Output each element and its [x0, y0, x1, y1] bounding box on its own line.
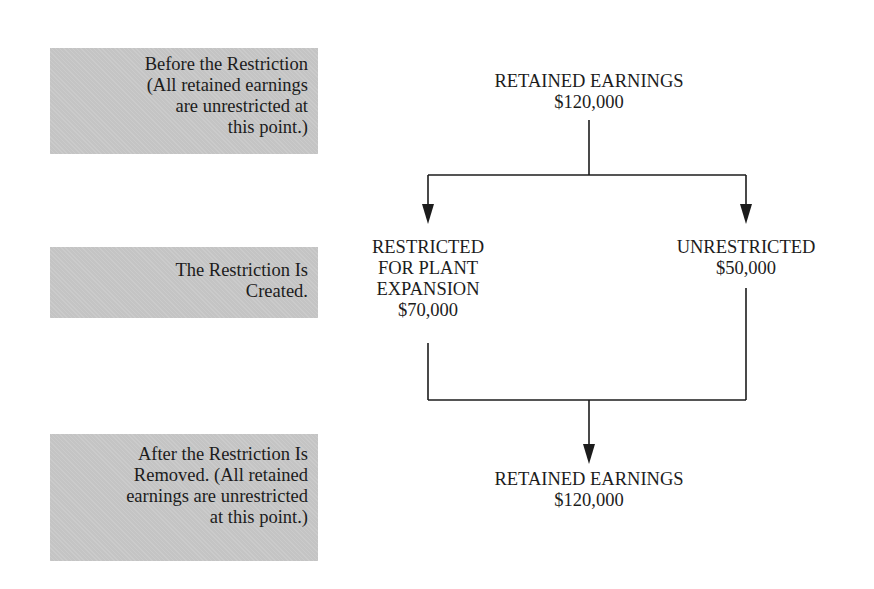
- node-amount: $50,000: [660, 258, 832, 279]
- node-restricted: RESTRICTED FOR PLANT EXPANSION $70,000: [348, 237, 508, 321]
- node-title: RETAINED EARNINGS: [469, 71, 709, 92]
- node-amount: $70,000: [348, 300, 508, 321]
- node-unrestricted: UNRESTRICTED $50,000: [660, 237, 832, 279]
- node-retained-earnings-top: RETAINED EARNINGS $120,000: [469, 71, 709, 113]
- node-retained-earnings-bottom: RETAINED EARNINGS $120,000: [469, 469, 709, 511]
- node-title: UNRESTRICTED: [660, 237, 832, 258]
- node-title: FOR PLANT: [348, 258, 508, 279]
- arrow-down-icon: [422, 204, 434, 224]
- node-amount: $120,000: [469, 490, 709, 511]
- node-title: RETAINED EARNINGS: [469, 469, 709, 490]
- arrow-down-icon: [583, 444, 595, 464]
- node-title: EXPANSION: [348, 279, 508, 300]
- arrow-down-icon: [740, 204, 752, 224]
- node-title: RESTRICTED: [348, 237, 508, 258]
- node-amount: $120,000: [469, 92, 709, 113]
